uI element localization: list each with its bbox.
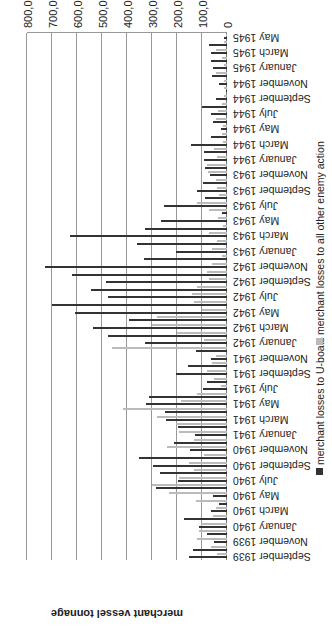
gridline xyxy=(76,33,77,560)
bar-other xyxy=(195,301,228,303)
bar-other xyxy=(217,355,228,357)
bar-other xyxy=(226,34,227,36)
bar-uboats xyxy=(72,274,227,276)
bar-uboats xyxy=(220,83,228,85)
tick-label: 600,000 xyxy=(72,0,84,28)
bar-other xyxy=(210,278,228,280)
bar-other xyxy=(225,87,228,89)
bar-uboats xyxy=(70,235,227,237)
bar-other xyxy=(215,378,228,380)
bar-other xyxy=(225,64,228,66)
bar-other xyxy=(200,530,228,532)
bar-other xyxy=(152,324,227,326)
bar-other xyxy=(225,41,228,43)
category-label: July 1942 xyxy=(233,292,278,304)
bar-uboats xyxy=(206,197,228,199)
bar-other xyxy=(196,500,227,502)
bar-other xyxy=(192,294,227,296)
bar-uboats xyxy=(221,128,227,130)
bar-other xyxy=(190,462,228,464)
category-label: May 1944 xyxy=(233,123,279,135)
bar-other xyxy=(212,362,227,364)
category-label: March 1943 xyxy=(233,230,288,242)
bar-uboats xyxy=(164,205,227,207)
bar-uboats xyxy=(199,526,227,528)
bar-uboats xyxy=(153,465,227,467)
tick-label: 800,000 xyxy=(22,0,34,28)
bar-uboats xyxy=(188,365,227,367)
bar-uboats xyxy=(203,388,227,390)
bar-uboats xyxy=(207,381,227,383)
category-label: July 1940 xyxy=(233,475,278,487)
bar-uboats xyxy=(75,312,227,314)
bar-other xyxy=(216,179,227,181)
bar-uboats xyxy=(213,67,227,69)
bar-uboats xyxy=(225,37,228,39)
bar-uboats xyxy=(108,335,227,337)
gridline xyxy=(26,33,27,560)
category-label: July 1944 xyxy=(233,108,278,120)
bar-uboats xyxy=(196,350,227,352)
bar-uboats xyxy=(213,495,227,497)
bar-other xyxy=(218,217,227,219)
bar-uboats xyxy=(189,556,227,558)
axis-line xyxy=(27,32,227,33)
bar-uboats xyxy=(52,304,227,306)
bar-uboats xyxy=(195,434,227,436)
bar-uboats xyxy=(108,297,227,299)
bar-uboats xyxy=(197,190,227,192)
category-label: November 1939 xyxy=(233,536,308,548)
axis-title: merchant vessel tonnage xyxy=(17,608,217,620)
bar-uboats xyxy=(93,327,227,329)
gridline xyxy=(51,33,52,560)
bar-other xyxy=(197,538,227,540)
bar-uboats xyxy=(212,136,228,138)
category-label: November 1941 xyxy=(233,353,308,365)
bar-other xyxy=(181,400,227,402)
tick-label: 200,000 xyxy=(172,0,184,28)
bar-uboats xyxy=(139,457,227,459)
bar-uboats xyxy=(146,403,227,405)
bar-uboats xyxy=(145,258,228,260)
bar-uboats xyxy=(91,289,227,291)
bar-uboats xyxy=(213,75,228,77)
bar-other xyxy=(195,469,228,471)
bar-uboats xyxy=(45,266,227,268)
bar-uboats xyxy=(211,113,227,115)
bar-uboats xyxy=(212,510,228,512)
bar-other xyxy=(207,271,227,273)
bar-uboats xyxy=(166,419,227,421)
bar-uboats xyxy=(226,90,227,92)
bar-uboats xyxy=(205,167,227,169)
bar-uboats xyxy=(212,358,228,360)
category-label: September 1939 xyxy=(233,551,311,563)
category-label: September 1943 xyxy=(233,185,311,197)
category-label: March 1944 xyxy=(233,139,288,151)
category-label: September 1940 xyxy=(233,460,311,472)
category-label: January 1942 xyxy=(233,337,297,349)
bar-uboats xyxy=(214,541,227,543)
bar-other xyxy=(170,492,228,494)
bar-uboats xyxy=(222,213,227,215)
bar-uboats xyxy=(210,174,227,176)
rotated-chart: September 1939November 1939January 1940M… xyxy=(0,0,332,642)
category-label: November 1942 xyxy=(233,261,308,273)
legend-swatch xyxy=(317,338,324,345)
bar-uboats xyxy=(209,44,227,46)
bar-other xyxy=(180,477,228,479)
bar-other xyxy=(222,255,227,257)
bar-uboats xyxy=(160,472,227,474)
bar-uboats xyxy=(207,533,227,535)
bar-other xyxy=(222,57,227,59)
bar-other xyxy=(213,515,227,517)
bar-other xyxy=(218,187,228,189)
bar-other xyxy=(216,118,227,120)
tick-label: 400,000 xyxy=(122,0,134,28)
category-label: March 1942 xyxy=(233,322,288,334)
category-label: November 1940 xyxy=(233,444,308,456)
bar-uboats xyxy=(145,342,227,344)
gridline xyxy=(101,33,102,560)
category-label: January 1940 xyxy=(233,521,297,533)
bar-other xyxy=(207,164,227,166)
bar-other xyxy=(197,202,227,204)
